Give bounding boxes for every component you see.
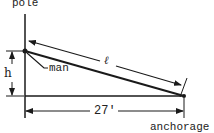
- height-label: h: [4, 67, 12, 79]
- anchorage-label: anchorage: [150, 122, 209, 133]
- length-label: ℓ: [104, 55, 109, 66]
- man-label: man: [49, 63, 69, 74]
- length-dimension-right: [116, 66, 181, 85]
- distance-label: 27': [92, 105, 118, 117]
- pole-label: pole: [12, 0, 38, 9]
- anchorage-point: [182, 94, 186, 98]
- length-dimension-left: [29, 41, 100, 61]
